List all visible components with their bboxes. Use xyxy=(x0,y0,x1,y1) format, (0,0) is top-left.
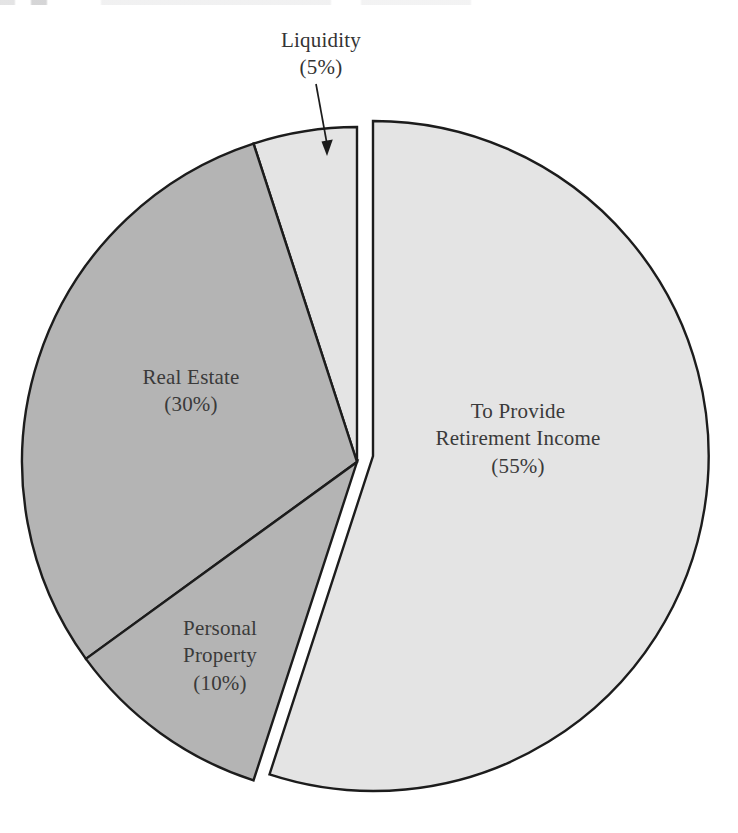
retirement-income-label-name-line1: To Provide xyxy=(404,398,632,425)
real-estate-label-percent: (30%) xyxy=(96,391,286,418)
liquidity-label-percent: (5%) xyxy=(236,54,406,81)
slice-label-real-estate: Real Estate (30%) xyxy=(96,364,286,419)
real-estate-label-name: Real Estate xyxy=(96,364,286,391)
personal-property-label-percent: (10%) xyxy=(145,670,295,697)
slice-label-personal-property: Personal Property (10%) xyxy=(145,615,295,697)
personal-property-label-name-line2: Property xyxy=(145,642,295,669)
pie-chart-figure: Liquidity (5%) Real Estate (30%) Persona… xyxy=(0,0,738,833)
retirement-income-label-percent: (55%) xyxy=(404,453,632,480)
slice-label-liquidity: Liquidity (5%) xyxy=(236,27,406,82)
retirement-income-label-name-line2: Retirement Income xyxy=(404,425,632,452)
personal-property-label-name-line1: Personal xyxy=(145,615,295,642)
slice-label-retirement-income: To Provide Retirement Income (55%) xyxy=(404,398,632,480)
liquidity-label-name: Liquidity xyxy=(236,27,406,54)
